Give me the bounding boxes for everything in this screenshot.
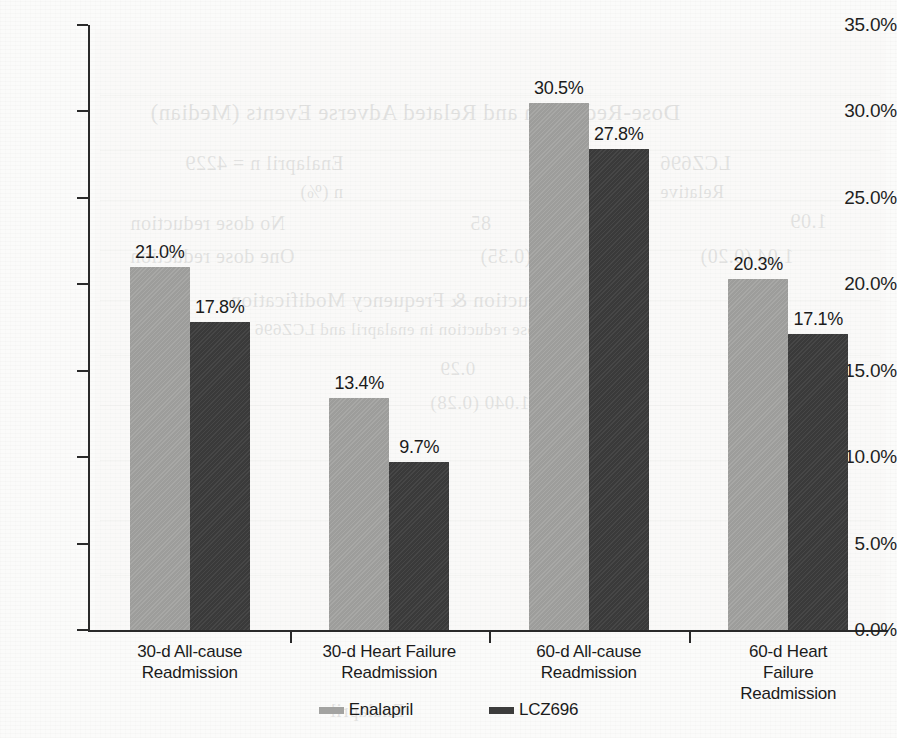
- y-tick-label: 35.0%: [823, 14, 897, 36]
- chart-legend: EnalaprilLCZ696: [0, 700, 897, 720]
- legend-swatch-icon: [319, 707, 344, 714]
- bar-value-label: 20.3%: [733, 254, 783, 275]
- bar-enalapril: [130, 267, 190, 630]
- bar-value-label: 9.7%: [399, 437, 439, 458]
- x-category-label-line: 30-d Heart Failure: [323, 641, 456, 662]
- bar-scan-texture: [589, 149, 649, 630]
- x-category-label: 60-d All-causeReadmission: [536, 641, 641, 683]
- x-category-label-line: 60-d Heart Failure: [734, 641, 843, 683]
- y-tick-mark: [77, 370, 88, 372]
- x-axis-divider: [689, 630, 691, 643]
- chart-container: Dose-Reduction and Related Adverse Event…: [0, 0, 897, 738]
- x-axis-divider: [489, 630, 491, 643]
- x-category-label: 60-d Heart FailureReadmission: [734, 641, 843, 704]
- bar-lcz696: [589, 149, 649, 630]
- plot-area: 0.0%5.0%10.0%15.0%20.0%25.0%30.0%35.0% 2…: [0, 0, 897, 738]
- legend-item-enalapril[interactable]: Enalapril: [319, 700, 413, 720]
- bar-value-label: 27.8%: [594, 124, 644, 145]
- legend-item-lcz696[interactable]: LCZ696: [489, 700, 578, 720]
- x-category-label: 30-d All-causeReadmission: [137, 641, 242, 683]
- bar-scan-texture: [529, 103, 589, 630]
- x-category-label-line: 30-d All-cause: [137, 641, 242, 662]
- y-tick-mark: [77, 629, 88, 631]
- y-tick-mark: [77, 543, 88, 545]
- bar-scan-texture: [389, 462, 449, 630]
- bar-value-label: 13.4%: [334, 373, 384, 394]
- y-tick-label: 25.0%: [823, 187, 897, 209]
- y-tick-mark: [77, 197, 88, 199]
- bar-scan-texture: [788, 334, 848, 630]
- legend-label: LCZ696: [519, 700, 578, 720]
- y-axis-line: [88, 25, 90, 631]
- bar-enalapril: [728, 279, 788, 630]
- bar-enalapril: [529, 103, 589, 630]
- bar-scan-texture: [130, 267, 190, 630]
- bar-lcz696: [788, 334, 848, 630]
- bar-lcz696: [190, 322, 250, 630]
- y-tick-mark: [77, 283, 88, 285]
- bar-value-label: 17.1%: [793, 309, 843, 330]
- bar-value-label: 17.8%: [195, 297, 245, 318]
- bar-value-label: 21.0%: [135, 242, 185, 263]
- x-category-label-line: Readmission: [536, 662, 641, 683]
- y-tick-mark: [77, 110, 88, 112]
- legend-label: Enalapril: [349, 700, 413, 720]
- y-tick-mark: [77, 456, 88, 458]
- bar-lcz696: [389, 462, 449, 630]
- x-axis-line: [88, 630, 888, 632]
- y-tick-label: 20.0%: [823, 273, 897, 295]
- bar-scan-texture: [329, 398, 389, 630]
- x-category-label-line: 60-d All-cause: [536, 641, 641, 662]
- legend-swatch-icon: [489, 707, 514, 714]
- x-category-label: 30-d Heart FailureReadmission: [323, 641, 456, 683]
- bar-value-label: 30.5%: [534, 78, 584, 99]
- x-axis-divider: [290, 630, 292, 643]
- y-tick-mark: [77, 24, 88, 26]
- bar-scan-texture: [190, 322, 250, 630]
- bar-enalapril: [329, 398, 389, 630]
- x-category-label-line: Readmission: [137, 662, 242, 683]
- y-tick-label: 30.0%: [823, 100, 897, 122]
- bar-scan-texture: [728, 279, 788, 630]
- x-category-label-line: Readmission: [323, 662, 456, 683]
